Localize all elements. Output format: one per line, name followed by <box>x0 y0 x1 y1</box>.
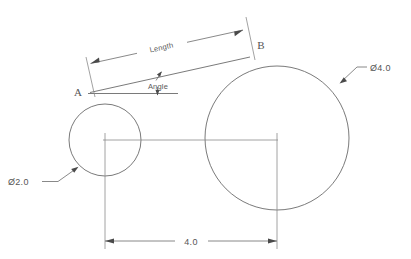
length-dimension-label: Length <box>149 41 175 55</box>
small-dia-arrow-icon <box>71 167 78 173</box>
length-arrow-a-icon <box>91 58 100 64</box>
angle-dimension-label: Angle <box>148 82 168 91</box>
angle-arrow-upper-icon <box>157 71 162 77</box>
large-dia-arrow-icon <box>340 77 348 83</box>
cad-drawing-svg: 4.0 Length Angle Ø2.0 Ø4.0 A B <box>0 0 411 259</box>
center-distance-label: 4.0 <box>184 237 197 247</box>
technical-drawing-canvas: 4.0 Length Angle Ø2.0 Ø4.0 A B <box>0 0 411 259</box>
dimension-arrow-left-icon <box>105 239 114 244</box>
length-arrow-b-icon <box>234 30 243 36</box>
point-a-label: A <box>74 86 82 98</box>
point-b-label: B <box>257 39 264 51</box>
large-circle-diameter-label: Ø4.0 <box>370 63 391 73</box>
length-extension-line-b <box>246 17 255 60</box>
small-circle-diameter-label: Ø2.0 <box>8 177 29 187</box>
dimension-arrow-right-icon <box>268 239 277 244</box>
angle-arrow-lower-icon <box>155 90 159 96</box>
